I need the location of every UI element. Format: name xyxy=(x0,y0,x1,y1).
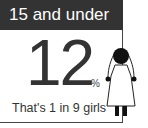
header-title: 15 and under xyxy=(0,0,123,30)
stat-caption: That's 1 in 9 girls xyxy=(12,101,106,115)
box-border-bottom xyxy=(0,122,123,123)
stat-unit: % xyxy=(91,78,100,89)
girl-figure-icon xyxy=(104,46,138,122)
stat-value: 12 xyxy=(26,31,93,95)
